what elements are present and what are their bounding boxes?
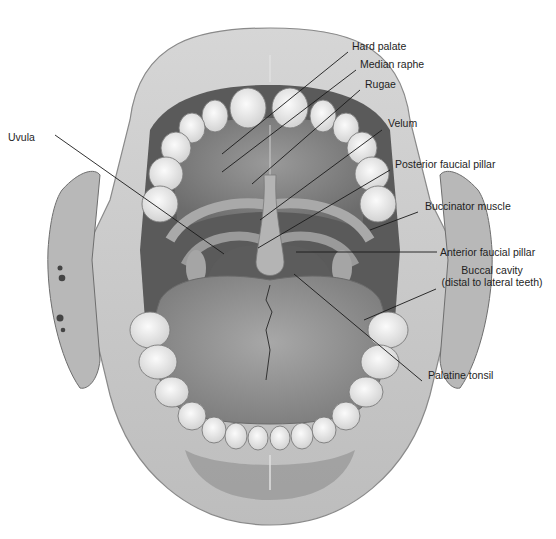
label-median-raphe: Median raphe [360, 58, 424, 70]
label-rugae: Rugae [365, 78, 396, 90]
label-buccinator-muscle: Buccinator muscle [425, 200, 511, 212]
label-buccal-cavity: Buccal cavity (distal to lateral teeth) [432, 264, 552, 288]
left-cheek-section [48, 171, 100, 388]
label-buccal-cavity-line1: Buccal cavity [432, 264, 552, 276]
label-palatine-tonsil: Palatine tonsil [428, 369, 493, 381]
anatomy-figure: Hard palate Median raphe Rugae Velum Pos… [0, 0, 556, 539]
tongue [153, 276, 387, 424]
label-hard-palate: Hard palate [352, 40, 406, 52]
label-anterior-faucial-pillar: Anterior faucial pillar [440, 246, 535, 258]
label-posterior-faucial-pillar: Posterior faucial pillar [395, 158, 495, 170]
label-buccal-cavity-line2: (distal to lateral teeth) [432, 276, 552, 288]
label-uvula: Uvula [8, 131, 35, 143]
label-velum: Velum [388, 117, 417, 129]
